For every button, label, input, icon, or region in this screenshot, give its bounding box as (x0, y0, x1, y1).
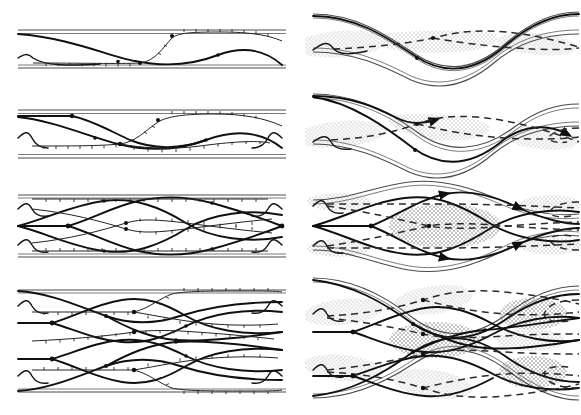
panel-r4c2 (305, 274, 581, 415)
panel-r2c1 (0, 96, 292, 184)
channel-walls-r4c1 (18, 290, 286, 392)
separatrix-solid-r3c1 (18, 197, 282, 254)
panel-r3c2 (305, 178, 581, 284)
separatrix-solid-r1c1 (18, 34, 282, 65)
panel-r1c2 (305, 0, 581, 100)
separatrix-solid-r2c1 (18, 116, 282, 149)
separatrix-hatched-r3c1 (32, 199, 284, 253)
panel-r1c1 (0, 8, 292, 96)
panel-r4c1 (0, 282, 292, 412)
panel-r3c1 (0, 185, 292, 275)
panel-r2c2 (305, 88, 581, 188)
hatch-ticks-r1c1 (46, 29, 268, 67)
figure-root: Separatrix and streamline topology panel… (0, 0, 581, 415)
island-shading-r2c2 (305, 114, 580, 153)
separatrix-hatched-r1c1 (33, 29, 282, 67)
island-shading-r3c2 (307, 193, 581, 257)
channel-walls-r1c1 (18, 30, 286, 68)
